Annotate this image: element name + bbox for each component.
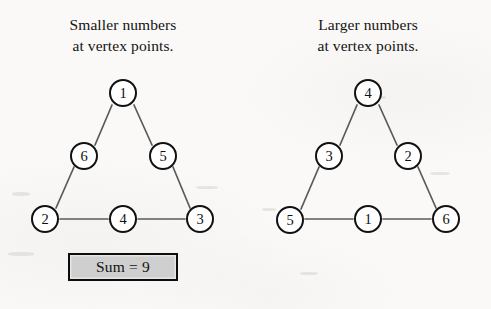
sum-box: Sum = 9 (68, 253, 178, 281)
triangle-diagram: 4 3 2 5 1 6 (245, 66, 491, 246)
node-value: 4 (119, 212, 126, 227)
triangle-node[interactable]: 3 (315, 142, 343, 170)
node-value: 1 (364, 212, 371, 227)
triangle-diagram: 1 6 5 2 4 3 (0, 66, 246, 246)
panel-smaller-numbers: Smaller numbers at vertex points. 1 6 (0, 0, 246, 309)
panel-larger-numbers: Larger numbers at vertex points. 4 3 (245, 0, 491, 309)
edge-left-to-bl (56, 167, 74, 208)
node-value: 5 (286, 213, 293, 228)
node-value: 2 (41, 212, 48, 227)
edge-top-to-right (134, 105, 152, 145)
triangle-node[interactable]: 6 (70, 142, 98, 170)
caption-line-2: at vertex points. (0, 35, 246, 56)
node-value: 5 (159, 149, 166, 164)
edge-top-to-left (340, 105, 357, 145)
node-value: 6 (80, 149, 87, 164)
triangle-node[interactable]: 6 (432, 205, 460, 233)
node-value: 6 (442, 212, 449, 227)
triangle-node[interactable]: 1 (109, 79, 137, 107)
triangle-node[interactable]: 5 (149, 142, 177, 170)
edge-left-to-bl (301, 167, 319, 209)
caption-line-2: at vertex points. (245, 35, 491, 56)
edge-top-to-right (379, 105, 397, 145)
node-value: 3 (196, 212, 203, 227)
caption-line-1: Larger numbers (318, 16, 418, 33)
edge-right-to-br (173, 167, 190, 208)
triangle-node[interactable]: 1 (354, 205, 382, 233)
node-value: 2 (404, 149, 411, 164)
panel-caption: Larger numbers at vertex points. (245, 14, 491, 56)
triangle-node[interactable]: 5 (276, 206, 304, 234)
triangle-node[interactable]: 3 (186, 205, 214, 233)
node-value: 3 (325, 149, 332, 164)
triangle-node[interactable]: 2 (394, 142, 422, 170)
node-value: 4 (364, 86, 371, 101)
triangle-node[interactable]: 4 (109, 205, 137, 233)
panel-caption: Smaller numbers at vertex points. (0, 14, 246, 56)
edge-top-to-left (95, 105, 112, 145)
caption-line-1: Smaller numbers (70, 16, 177, 33)
sum-label: Sum = 9 (96, 258, 150, 276)
node-value: 1 (119, 86, 126, 101)
triangle-node[interactable]: 2 (31, 205, 59, 233)
figure-canvas: Smaller numbers at vertex points. 1 6 (0, 0, 491, 309)
triangle-node[interactable]: 4 (354, 79, 382, 107)
edge-right-to-br (418, 167, 436, 208)
